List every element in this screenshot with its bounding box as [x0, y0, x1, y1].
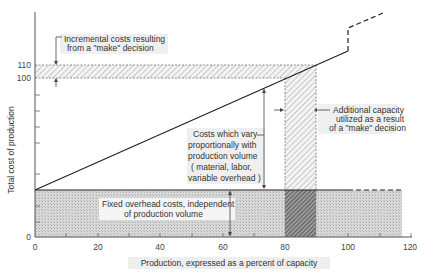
variable-label-line2: proportionally with — [188, 140, 257, 150]
incremental-cost-band — [35, 65, 316, 78]
cost-chart: 110 100 0 0 20 40 60 80 100 120 Producti… — [0, 0, 429, 272]
overlap-region — [285, 190, 316, 237]
x-tick-20: 20 — [93, 242, 103, 252]
variable-label-line1: Costs which vary — [193, 129, 258, 139]
y-tick-110: 110 — [17, 60, 31, 70]
x-tick-80: 80 — [280, 242, 290, 252]
variable-label-line3: production volume — [188, 151, 258, 161]
additional-label-line3: of a "make" decision — [329, 123, 406, 133]
x-tick-100: 100 — [341, 242, 355, 252]
x-tick-60: 60 — [218, 242, 228, 252]
variable-label-line4: ( material, labor, — [191, 162, 252, 172]
variable-label-line5: variable overhead ) — [188, 173, 261, 183]
fixed-label-line1: Fixed overhead costs, independent — [102, 199, 235, 209]
fixed-label-line2: of production volume — [124, 209, 203, 219]
x-tick-0: 0 — [33, 242, 38, 252]
total-cost-dashed — [348, 13, 383, 51]
x-tick-120: 120 — [403, 242, 417, 252]
incremental-label-line2: from a "make" decision — [67, 43, 154, 53]
y-tick-100: 100 — [17, 73, 31, 83]
additional-capacity-band — [285, 65, 316, 190]
x-axis-title: Production, expressed as a percent of ca… — [141, 258, 318, 268]
x-tick-40: 40 — [155, 242, 165, 252]
y-axis-title: Total cost of production — [6, 106, 16, 194]
y-tick-0: 0 — [26, 232, 31, 242]
